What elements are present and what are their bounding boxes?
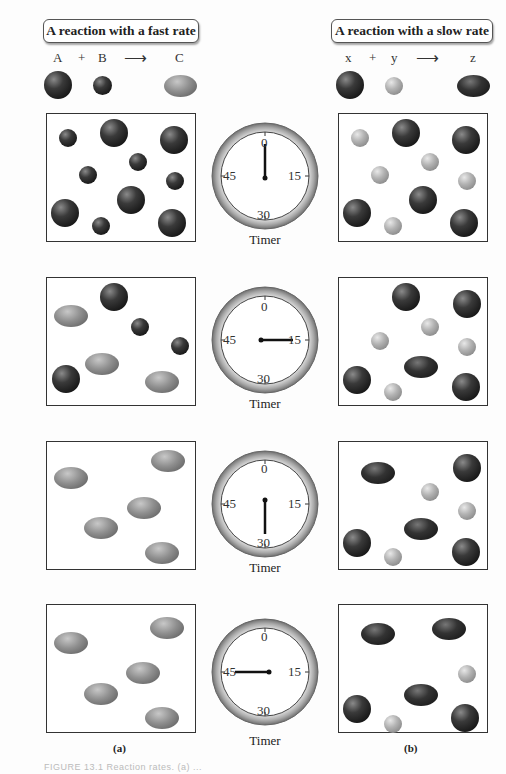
tick-45: 45 xyxy=(223,664,236,680)
slow-panel-t30 xyxy=(338,441,488,570)
fast-panel-t0 xyxy=(46,113,196,242)
molecule-x-icon xyxy=(336,71,364,99)
timer-label: Timer xyxy=(211,560,319,576)
tick-15: 15 xyxy=(288,496,301,512)
fast-rate-title: A reaction with a fast rate xyxy=(43,19,199,43)
molecule-y-icon xyxy=(385,77,403,95)
tick-30: 30 xyxy=(257,207,270,223)
reactant-y-label: y xyxy=(391,50,398,66)
timer-label: Timer xyxy=(211,232,319,248)
plus-sign: + xyxy=(369,50,376,66)
tick-15: 15 xyxy=(288,332,301,348)
fast-panel-t15 xyxy=(46,277,196,406)
figure-caption: FIGURE 13.1 Reaction rates. (a) ... xyxy=(44,762,202,772)
slow-panel-t0 xyxy=(338,113,488,242)
tick-45: 45 xyxy=(223,168,236,184)
fast-panel-t45 xyxy=(46,604,196,733)
molecule-z-icon xyxy=(457,75,490,97)
tick-30: 30 xyxy=(257,535,270,551)
slow-rate-title: A reaction with a slow rate xyxy=(331,19,493,43)
slow-panel-t15 xyxy=(338,277,488,406)
product-z-label: z xyxy=(470,50,476,66)
timer-label: Timer xyxy=(211,396,319,412)
tick-30: 30 xyxy=(257,703,270,719)
reactant-x-label: x xyxy=(345,50,352,66)
panel-a-label: (a) xyxy=(113,742,126,754)
arrow-icon: ⟶ xyxy=(124,48,147,67)
molecule-b-icon xyxy=(93,76,112,95)
tick-15: 15 xyxy=(288,168,301,184)
fast-panel-t30 xyxy=(46,441,196,570)
tick-0: 0 xyxy=(261,299,268,315)
reactant-a-label: A xyxy=(53,50,62,66)
plus-sign: + xyxy=(78,50,85,66)
tick-0: 0 xyxy=(261,629,268,645)
tick-0: 0 xyxy=(261,135,268,151)
tick-45: 45 xyxy=(223,496,236,512)
slow-panel-t45 xyxy=(338,604,488,733)
tick-0: 0 xyxy=(261,461,268,477)
reactant-b-label: B xyxy=(98,50,107,66)
arrow-icon: ⟶ xyxy=(416,48,439,67)
timer-label: Timer xyxy=(211,733,319,749)
tick-15: 15 xyxy=(288,664,301,680)
panel-b-label: (b) xyxy=(404,742,417,754)
molecule-a-icon xyxy=(44,71,72,99)
tick-45: 45 xyxy=(223,332,236,348)
tick-30: 30 xyxy=(257,371,270,387)
molecule-c-icon xyxy=(164,75,197,97)
product-c-label: C xyxy=(175,50,184,66)
